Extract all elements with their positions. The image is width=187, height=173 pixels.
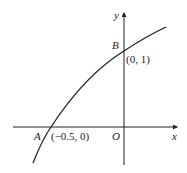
point-b-coord: (0, 1) bbox=[126, 53, 150, 66]
y-axis-label: y bbox=[113, 9, 119, 21]
point-a-coord: (−0.5, 0) bbox=[51, 130, 90, 143]
function-curve bbox=[33, 27, 166, 163]
point-a-label: A bbox=[33, 130, 41, 142]
graph-figure: y x O B (0, 1) A (−0.5, 0) bbox=[0, 0, 187, 173]
x-axis-label: x bbox=[171, 130, 177, 142]
point-b-label: B bbox=[112, 39, 119, 51]
origin-label: O bbox=[112, 130, 120, 142]
